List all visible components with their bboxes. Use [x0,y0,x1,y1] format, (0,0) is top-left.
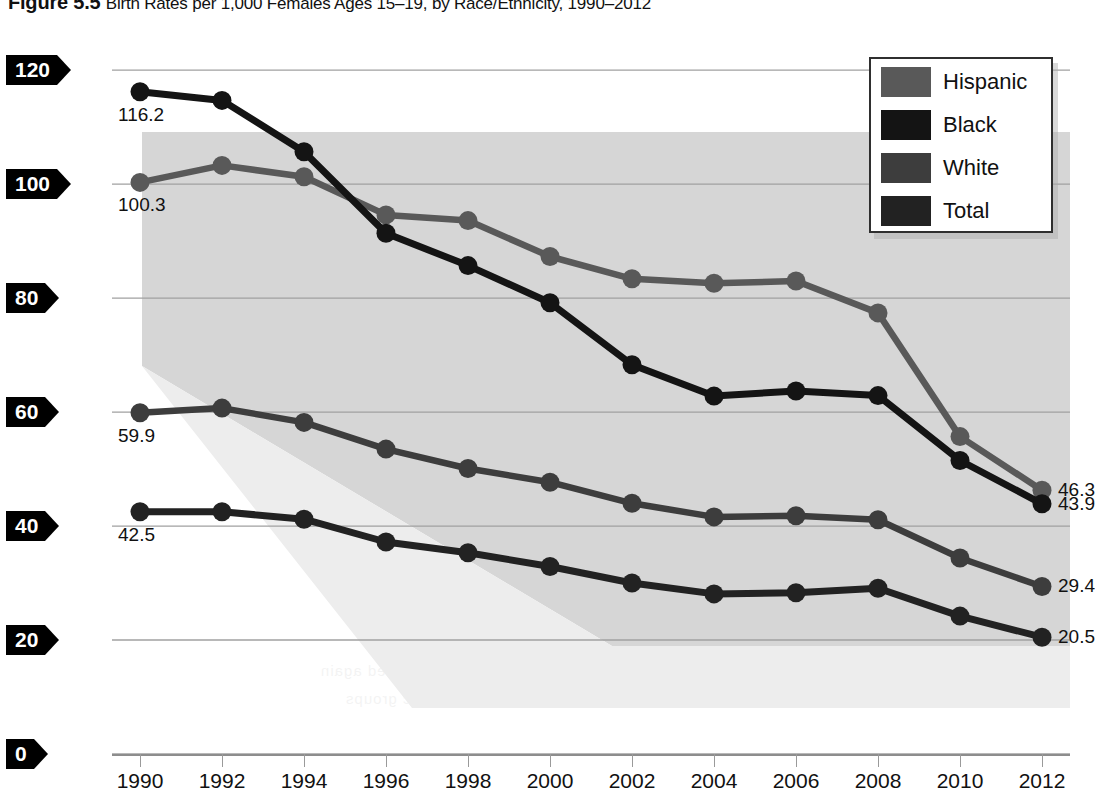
y-axis-tick-20: 20 [6,625,59,655]
y-tick-pointer-icon [57,169,71,199]
y-tick-pointer-icon [45,283,59,313]
end-label-white: 29.4 [1058,575,1095,597]
x-axis-label-1998: 1998 [445,769,492,793]
x-axis-tick [796,754,797,767]
x-axis-tick [714,754,715,767]
y-tick-label: 100 [6,169,57,199]
legend-item-total[interactable]: Total [881,191,1051,231]
x-axis-label-1996: 1996 [363,769,410,793]
start-label-total: 42.5 [118,524,155,546]
y-axis-tick-60: 60 [6,397,59,427]
x-axis-tick [960,754,961,767]
figure-chart: Figure 5.5 Birth Rates per 1,000 Females… [0,0,1095,795]
y-axis-tick-80: 80 [6,283,59,313]
y-tick-pointer-icon [34,739,48,769]
x-axis-label-2004: 2004 [691,769,738,793]
x-axis: 1990199219941996199820002002200420062008… [112,754,1070,795]
x-axis-tick [1042,754,1043,767]
y-tick-pointer-icon [45,511,59,541]
y-axis-tick-40: 40 [6,511,59,541]
x-axis-tick [386,754,387,767]
figure-title: Figure 5.5 Birth Rates per 1,000 Females… [8,0,651,15]
x-axis-label-2012: 2012 [1019,769,1066,793]
x-axis-tick [632,754,633,767]
y-tick-label: 20 [6,625,45,655]
y-axis-tick-0: 0 [6,739,48,769]
y-tick-label: 0 [6,739,34,769]
legend-swatch-icon [881,110,931,140]
end-label-black: 43.9 [1058,493,1095,515]
legend-label: White [943,157,999,179]
y-tick-label: 120 [6,55,57,85]
x-axis-label-1994: 1994 [281,769,328,793]
x-axis-tick [222,754,223,767]
x-axis-label-2002: 2002 [609,769,656,793]
y-axis-tick-120: 120 [6,55,71,85]
x-axis-label-1990: 1990 [117,769,164,793]
x-axis-label-1992: 1992 [199,769,246,793]
y-tick-pointer-icon [45,397,59,427]
legend-label: Total [943,200,989,222]
x-axis-tick [878,754,879,767]
x-axis-label-2010: 2010 [937,769,984,793]
legend-label: Hispanic [943,71,1027,93]
y-tick-label: 80 [6,283,45,313]
y-tick-pointer-icon [45,625,59,655]
x-axis-label-2000: 2000 [527,769,574,793]
start-label-hispanic: 100.3 [118,194,166,216]
legend-item-white[interactable]: White [881,148,1051,188]
x-axis-tick [304,754,305,767]
legend-swatch-icon [881,196,931,226]
legend-item-black[interactable]: Black [881,105,1051,145]
legend-swatch-icon [881,67,931,97]
end-label-total: 20.5 [1058,626,1095,648]
x-axis-label-2008: 2008 [855,769,902,793]
start-label-black: 116.2 [118,104,164,126]
x-axis-label-2006: 2006 [773,769,820,793]
y-tick-label: 60 [6,397,45,427]
y-tick-label: 40 [6,511,45,541]
legend-label: Black [943,114,997,136]
x-axis-tick [550,754,551,767]
x-axis-line [112,754,1070,756]
x-axis-tick [468,754,469,767]
x-axis-tick [140,754,141,767]
start-label-white: 59.9 [118,425,155,447]
legend-item-hispanic[interactable]: Hispanic [881,62,1051,102]
figure-number: Figure 5.5 [8,0,100,13]
chart-legend: HispanicBlackWhiteTotal [869,57,1053,233]
y-tick-pointer-icon [57,55,71,85]
legend-swatch-icon [881,153,931,183]
y-axis-tick-100: 100 [6,169,71,199]
figure-caption: Birth Rates per 1,000 Females Ages 15–19… [106,0,651,13]
